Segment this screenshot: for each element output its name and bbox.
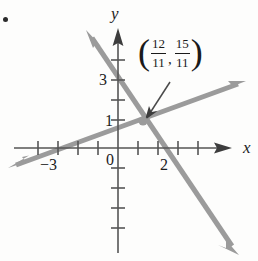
x-denominator: 11 [151,55,166,71]
x-fraction: 12 11 [151,36,166,71]
close-paren: ) [191,38,203,66]
x-fraction-bar [151,53,166,54]
y-denominator: 11 [175,55,190,71]
x-axis-label: x [243,139,251,156]
y-tick-label-3: 3 [99,72,107,88]
intersection-point [138,116,147,125]
coordinate-plane-svg [0,0,258,261]
x-tick-label-2: 2 [160,157,168,173]
y-numerator: 15 [175,36,190,52]
y-fraction-bar [175,53,190,54]
graph-figure: x y 0 −3 2 1 3 ( 12 11 , 15 11 ) [0,0,258,261]
origin-label: 0 [106,152,114,168]
open-paren: ( [138,38,150,66]
point-coordinate-label: ( 12 11 , 15 11 ) [138,36,203,71]
y-fraction: 15 11 [175,36,190,71]
y-tick-label-1: 1 [105,113,113,129]
x-tick-label-neg3: −3 [40,157,57,173]
x-numerator: 12 [151,36,166,52]
coordinate-comma: , [168,51,172,68]
y-axis [113,28,124,253]
y-axis-label: y [111,5,119,22]
